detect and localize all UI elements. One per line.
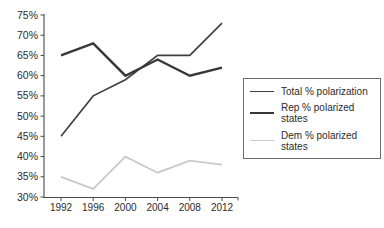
y-tick-label: 40% (17, 150, 38, 162)
x-tick-label: 2004 (146, 202, 169, 213)
y-tick-label: 65% (17, 49, 38, 61)
x-tick-label: 1992 (50, 202, 73, 213)
y-tick-label: 45% (17, 130, 38, 142)
legend-label-total: Total % polarization (281, 86, 368, 97)
y-tick-label: 60% (17, 69, 38, 81)
y-tick-label: 50% (17, 110, 38, 122)
series-line-total (61, 23, 222, 136)
legend-item-rep: Rep % polarized states (250, 102, 374, 124)
series-line-dem (61, 157, 222, 189)
total-line-sample (250, 91, 274, 92)
legend-item-dem: Dem % polarized states (250, 130, 374, 152)
polarization-line-chart-figure: 30%35%40%45%50%55%60%65%70%75%1992199620… (0, 0, 384, 228)
x-tick-label: 1996 (82, 202, 105, 213)
x-tick-label: 2012 (211, 202, 234, 213)
x-tick-label: 2008 (179, 202, 202, 213)
y-tick-label: 55% (17, 89, 38, 101)
rep-line-sample (250, 112, 274, 114)
x-tick-label: 2000 (114, 202, 137, 213)
legend-label-dem: Dem % polarized states (281, 130, 374, 152)
y-tick-label: 70% (17, 29, 38, 41)
dem-line-sample (250, 140, 274, 141)
y-tick-label: 75% (17, 9, 38, 21)
y-tick-label: 30% (17, 191, 38, 203)
axes (44, 14, 238, 198)
legend-item-total: Total % polarization (250, 86, 374, 97)
y-tick-label: 35% (17, 170, 38, 182)
legend: Total % polarization Rep % polarized sta… (243, 78, 381, 159)
legend-label-rep: Rep % polarized states (281, 102, 374, 124)
